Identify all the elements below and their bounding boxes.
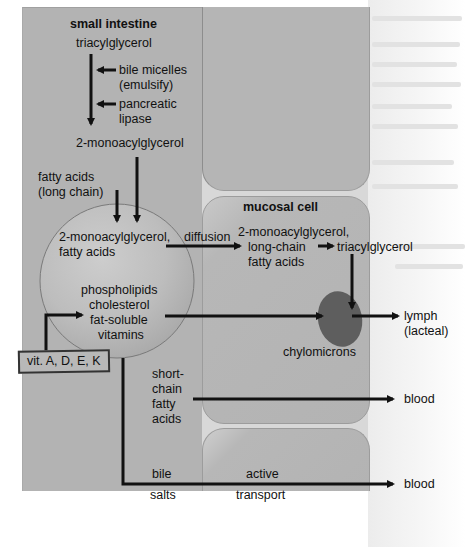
cell-title: mucosal cell bbox=[243, 200, 318, 215]
chylomicron-blob bbox=[313, 287, 368, 351]
short-chain-line1: short- bbox=[152, 367, 184, 382]
lymph-label: lymph bbox=[404, 309, 437, 324]
agent-bile-line2: (emulsify) bbox=[119, 78, 173, 93]
resynthesized-tag: triacylglycerol bbox=[337, 240, 413, 255]
short-chain-line2: chain bbox=[152, 382, 182, 397]
fatty-acids-line1: fatty acids bbox=[38, 170, 94, 185]
agent-lipase-line1: pancreatic bbox=[119, 97, 177, 112]
cell-contents-line3: fatty acids bbox=[248, 255, 304, 270]
diffusion-label: diffusion bbox=[184, 230, 230, 245]
micelle-fat-soluble: fat-soluble bbox=[90, 313, 148, 328]
lacteal-label: (lacteal) bbox=[404, 324, 448, 339]
substrate-label: triacylglycerol bbox=[76, 36, 152, 51]
micelle-phospholipids: phospholipids bbox=[81, 283, 157, 298]
lumen-title: small intestine bbox=[70, 17, 157, 32]
cell-contents-line2: long-chain bbox=[248, 240, 306, 255]
diagram-arrows bbox=[0, 0, 465, 547]
fatty-acids-line2: (long chain) bbox=[38, 185, 103, 200]
agent-lipase-line2: lipase bbox=[119, 112, 152, 127]
vitamins-label: vit. A, D, E, K bbox=[27, 354, 101, 369]
blood-label-2: blood bbox=[404, 477, 435, 492]
micelle-cholesterol: cholesterol bbox=[89, 298, 149, 313]
blood-label-1: blood bbox=[404, 392, 435, 407]
cell-contents-line1: 2-monoacylglycerol, bbox=[238, 225, 349, 240]
bile-label: bile bbox=[152, 467, 171, 482]
micelle-vitamins: vitamins bbox=[98, 328, 144, 343]
transport-label: transport bbox=[236, 488, 285, 503]
agent-bile-line1: bile micelles bbox=[119, 63, 187, 78]
product-label: 2-monoacylglycerol bbox=[76, 136, 184, 151]
micelle-top-line1: 2-monoacylglycerol, bbox=[59, 230, 170, 245]
salts-label: salts bbox=[150, 488, 176, 503]
chylomicrons-label: chylomicrons bbox=[283, 345, 356, 360]
micelle-top-line2: fatty acids bbox=[59, 245, 115, 260]
active-label: active bbox=[246, 467, 279, 482]
short-chain-line4: acids bbox=[152, 412, 181, 427]
short-chain-line3: fatty bbox=[152, 397, 176, 412]
